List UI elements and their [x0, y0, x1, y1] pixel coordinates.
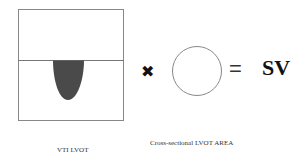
multiply-icon: ✖ [141, 62, 154, 81]
lvot-area-circle [173, 47, 222, 96]
doppler-envelope-shape [53, 61, 84, 101]
stroke-volume-label: SV [262, 55, 290, 81]
equals-sign: = [229, 56, 242, 82]
lvot-area-label: Cross-sectional LVOT AREA [150, 139, 233, 147]
vti-lvot-label: VTI LVOT [57, 146, 88, 154]
